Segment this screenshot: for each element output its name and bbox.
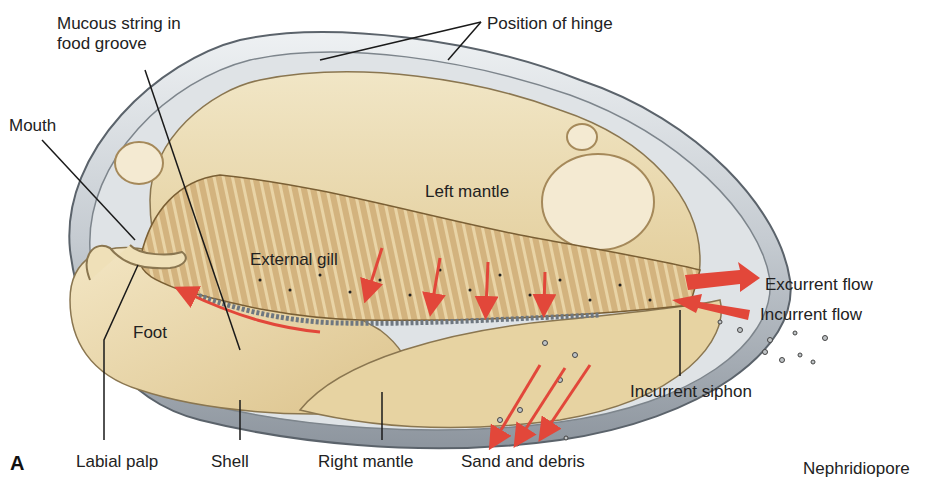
clam-anatomy-diagram [0, 0, 942, 479]
label-excurrent-flow: Excurrent flow [765, 275, 873, 295]
gill-flow-arrow [486, 262, 488, 308]
label-position-of-hinge: Position of hinge [487, 14, 613, 34]
gill-flow-arrow [544, 272, 545, 306]
label-shell: Shell [211, 452, 249, 472]
label-nephridiopore: Nephridiopore [803, 459, 910, 479]
label-sand-and-debris: Sand and debris [461, 452, 585, 472]
panel-letter: A [10, 452, 24, 475]
label-mouth: Mouth [9, 116, 56, 136]
label-external-gill: External gill [250, 250, 338, 270]
label-mucous-string: Mucous string in food groove [57, 14, 181, 54]
label-incurrent-siphon: Incurrent siphon [630, 382, 752, 402]
label-right-mantle: Right mantle [318, 452, 413, 472]
label-foot: Foot [133, 323, 167, 343]
label-left-mantle: Left mantle [425, 182, 509, 202]
label-incurrent-flow: Incurrent flow [760, 305, 862, 325]
label-labial-palp: Labial palp [76, 452, 158, 472]
